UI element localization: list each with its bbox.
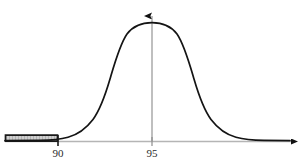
normal-density-curve bbox=[5, 23, 290, 141]
x-tick-label-95: 95 bbox=[140, 148, 164, 159]
normal-distribution-chart bbox=[0, 0, 301, 166]
bell-curve-figure: 90 95 bbox=[0, 0, 301, 166]
x-tick-label-90: 90 bbox=[46, 148, 70, 159]
